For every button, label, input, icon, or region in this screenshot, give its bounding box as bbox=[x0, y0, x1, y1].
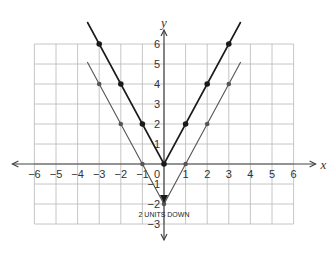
data-point bbox=[204, 81, 210, 87]
data-point bbox=[205, 122, 210, 127]
y-tick-label: −2 bbox=[147, 198, 160, 210]
x-tick-label: 5 bbox=[269, 168, 275, 180]
x-tick-label: 6 bbox=[291, 168, 297, 180]
x-tick-label: 3 bbox=[226, 168, 232, 180]
x-tick-label: −2 bbox=[115, 168, 128, 180]
y-tick-label: 4 bbox=[154, 78, 160, 90]
x-tick-label: −6 bbox=[28, 168, 41, 180]
x-tick-label: 4 bbox=[247, 168, 253, 180]
data-point bbox=[119, 122, 124, 127]
axes: xy bbox=[12, 15, 326, 240]
y-tick-label: 5 bbox=[154, 58, 160, 70]
annotation-label: 2 UNITS DOWN bbox=[139, 211, 190, 218]
y-tick-label: 2 bbox=[154, 118, 160, 130]
origin-label: 0 bbox=[154, 168, 160, 180]
data-point bbox=[183, 121, 189, 127]
y-tick-label: 3 bbox=[154, 98, 160, 110]
y-axis-label: y bbox=[159, 15, 167, 30]
x-axis-label: x bbox=[320, 157, 327, 172]
data-point bbox=[97, 82, 102, 87]
x-tick-label: 2 bbox=[204, 168, 210, 180]
x-tick-label: −3 bbox=[93, 168, 106, 180]
data-point bbox=[183, 162, 188, 167]
graph: xy −6−5−4−3−2−1123456−3−2−11234560 2 UNI… bbox=[0, 0, 335, 254]
data-point bbox=[161, 161, 167, 167]
data-point bbox=[118, 81, 124, 87]
data-point bbox=[140, 162, 145, 167]
x-tick-label: −5 bbox=[50, 168, 63, 180]
data-point bbox=[140, 121, 146, 127]
x-tick-label: 1 bbox=[183, 168, 189, 180]
y-tick-label: −3 bbox=[147, 218, 160, 230]
x-tick-label: −4 bbox=[71, 168, 84, 180]
data-point bbox=[226, 41, 232, 47]
data-point bbox=[96, 41, 102, 47]
y-tick-label: 6 bbox=[154, 38, 160, 50]
data-point bbox=[227, 82, 232, 87]
